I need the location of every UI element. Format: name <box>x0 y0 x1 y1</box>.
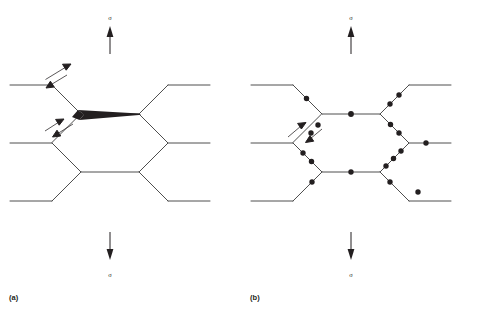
void <box>398 148 403 153</box>
creep-fracture-figure: σ σ <box>0 0 482 319</box>
void <box>309 159 314 164</box>
void <box>423 140 428 145</box>
boundary-a-3 <box>139 85 168 114</box>
stress-arrow-top-a <box>107 26 114 54</box>
boundary-a-1 <box>52 85 81 114</box>
boundary-a-7 <box>52 172 81 201</box>
void <box>387 101 392 106</box>
central-hexagon-a <box>52 114 168 172</box>
void <box>415 189 420 194</box>
void <box>308 130 313 135</box>
boundary-b-7 <box>293 172 322 201</box>
void <box>304 96 309 101</box>
boundary-b-9 <box>380 172 409 201</box>
boundary-a-9 <box>139 172 168 201</box>
sigma-label-top-b: σ <box>349 14 353 21</box>
void <box>348 111 354 117</box>
void <box>383 163 388 168</box>
panel-b: σ σ <box>251 14 451 278</box>
void <box>396 92 401 97</box>
wedge-crack-a <box>72 110 141 120</box>
sigma-label-bottom-a: σ <box>108 271 112 278</box>
panel-a: σ σ <box>10 14 210 278</box>
void-group-b <box>300 92 428 194</box>
void <box>396 130 401 135</box>
void <box>315 122 320 127</box>
grain-boundary-network-a <box>10 85 210 201</box>
boundary-b-3 <box>380 85 409 114</box>
stress-arrow-bottom-a <box>107 232 114 260</box>
slip-arrows-upper-a <box>46 64 72 88</box>
stress-arrow-top-b <box>348 26 355 54</box>
void <box>387 179 392 184</box>
void <box>391 156 396 161</box>
void <box>300 150 305 155</box>
stress-arrow-bottom-b <box>348 232 355 260</box>
slip-arrows-lower-a <box>45 119 73 137</box>
void <box>388 122 393 127</box>
caption-fragment <box>0 312 482 319</box>
panel-label-a: (a) <box>9 293 18 302</box>
sigma-label-top-a: σ <box>108 14 112 21</box>
void <box>309 179 314 184</box>
grain-boundary-network-b <box>251 85 451 201</box>
sigma-label-bottom-b: σ <box>349 271 353 278</box>
panel-label-b: (b) <box>250 293 260 302</box>
void <box>348 169 353 174</box>
